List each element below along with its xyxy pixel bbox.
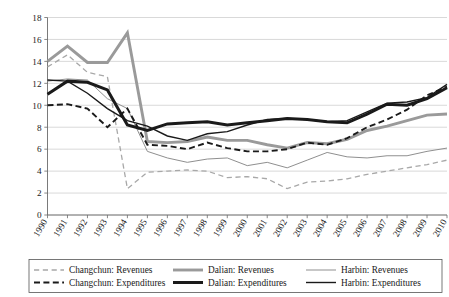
legend-label: Dalian: Expenditures <box>208 278 287 288</box>
x-tick-label: 1992 <box>71 217 89 238</box>
y-tick-label: 12 <box>32 79 42 89</box>
x-tick-label: 2000 <box>231 217 249 238</box>
x-tick-label: 2005 <box>331 217 349 238</box>
plot-gridlines <box>48 18 448 216</box>
x-tick-label: 1995 <box>131 217 149 238</box>
legend-label: Harbin: Revenues <box>341 265 408 275</box>
x-tick-label: 1991 <box>51 217 69 238</box>
y-tick-label: 6 <box>37 144 42 154</box>
x-tick-label: 1990 <box>31 217 49 238</box>
x-tick-label: 2001 <box>251 217 269 238</box>
x-axis-labels: 1990199119921993199419951996199719981999… <box>31 217 449 238</box>
y-tick-label: 4 <box>37 166 42 176</box>
y-tick-label: 10 <box>32 101 42 111</box>
data-series-group <box>48 33 448 189</box>
y-tick-label: 16 <box>32 35 42 45</box>
y-tick-label: 18 <box>32 13 42 23</box>
x-tick-label: 1999 <box>211 217 229 238</box>
x-tick-label: 2006 <box>351 217 369 238</box>
x-tick-label: 1997 <box>171 217 189 238</box>
series-line-dalian-expenditures <box>48 81 448 130</box>
legend-label: Changchun: Revenues <box>69 265 153 275</box>
x-tick-label: 1994 <box>111 217 129 238</box>
x-tick-label: 2008 <box>391 217 409 238</box>
y-tick-label: 2 <box>37 188 42 198</box>
chart-legend: Changchun: RevenuesChangchun: Expenditur… <box>29 260 442 293</box>
legend-label: Dalian: Revenues <box>208 265 274 275</box>
line-chart: 024681012141618 199019911992199319941995… <box>0 0 449 297</box>
x-tick-label: 1998 <box>191 217 209 238</box>
legend-label: Harbin: Expenditures <box>341 278 421 288</box>
x-tick-label: 2007 <box>371 217 389 238</box>
x-tick-label: 2002 <box>271 217 289 238</box>
y-tick-label: 14 <box>32 57 42 67</box>
x-tick-label: 2009 <box>411 217 429 238</box>
legend-label: Changchun: Expenditures <box>69 278 166 288</box>
x-tick-label: 2010 <box>431 217 449 238</box>
x-tick-label: 2003 <box>291 217 309 238</box>
axis-lines <box>44 18 447 219</box>
y-axis-labels: 024681012141618 <box>32 13 42 221</box>
x-tick-label: 2004 <box>311 217 329 238</box>
x-tick-label: 1993 <box>91 217 109 238</box>
y-tick-label: 8 <box>37 123 42 133</box>
x-tick-label: 1996 <box>151 217 169 238</box>
chart-canvas: 024681012141618 199019911992199319941995… <box>0 0 449 297</box>
